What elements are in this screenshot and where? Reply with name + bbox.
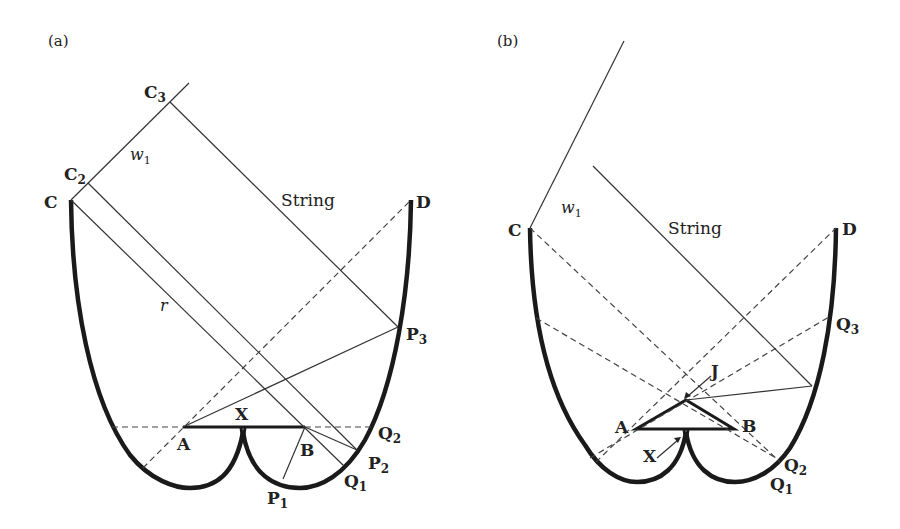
label-string-a: String — [281, 190, 335, 210]
label-p3-a: P3 — [406, 324, 427, 347]
label-p1-a: P1 — [267, 488, 288, 511]
panel-b-label: (b) — [497, 32, 518, 50]
label-r-a: r — [160, 296, 169, 315]
label-d-a: D — [416, 192, 431, 212]
a-p3-line-a — [183, 327, 398, 427]
string-line-a — [170, 102, 398, 327]
panel-a: (a) C C2 C3 D w1 String r X A — [44, 32, 431, 511]
w1-line-a — [71, 83, 189, 200]
label-q3-b: Q3 — [836, 314, 859, 337]
label-c3-a: C3 — [144, 82, 166, 105]
c2-p2-line-a — [88, 183, 357, 450]
dashed-left-q2-b — [536, 318, 776, 458]
label-w1-b: w1 — [561, 198, 582, 220]
cusp-x-b — [684, 430, 688, 442]
panel-b: (b) C D w1 String J A B X Q3 Q2 Q1 — [497, 32, 859, 497]
cusp-x-a — [241, 428, 245, 440]
label-a-a: A — [176, 434, 191, 454]
label-q1-a: Q1 — [344, 471, 367, 494]
x-pointer-arrow — [657, 440, 678, 458]
outer-curve-b — [530, 228, 836, 482]
panel-a-label: (a) — [48, 32, 69, 50]
label-d-b: D — [842, 219, 857, 239]
label-b-b: B — [742, 416, 756, 436]
label-x-b: X — [643, 446, 657, 466]
w1-line-b — [530, 41, 624, 228]
label-b-a: B — [300, 440, 314, 460]
label-c-b: C — [508, 220, 522, 240]
outer-curve-a — [71, 200, 411, 488]
label-q2-a: Q2 — [378, 423, 401, 446]
label-x-a: X — [235, 404, 249, 424]
label-c2-a: C2 — [64, 164, 86, 187]
label-c-a: C — [44, 192, 58, 212]
j-arrowhead-icon — [684, 392, 691, 399]
label-w1-a: w1 — [130, 145, 151, 167]
label-a-b: A — [614, 417, 629, 437]
label-string-b: String — [668, 218, 722, 238]
label-q2-b: Q2 — [784, 455, 807, 478]
j-string-end-line-b — [686, 386, 812, 400]
label-q1-b: Q1 — [770, 474, 793, 497]
label-j-b: J — [709, 362, 719, 381]
label-p2-a: P2 — [368, 453, 389, 476]
string-line-b — [593, 166, 812, 386]
string-construction-diagram: (a) C C2 C3 D w1 String r X A — [0, 0, 900, 529]
